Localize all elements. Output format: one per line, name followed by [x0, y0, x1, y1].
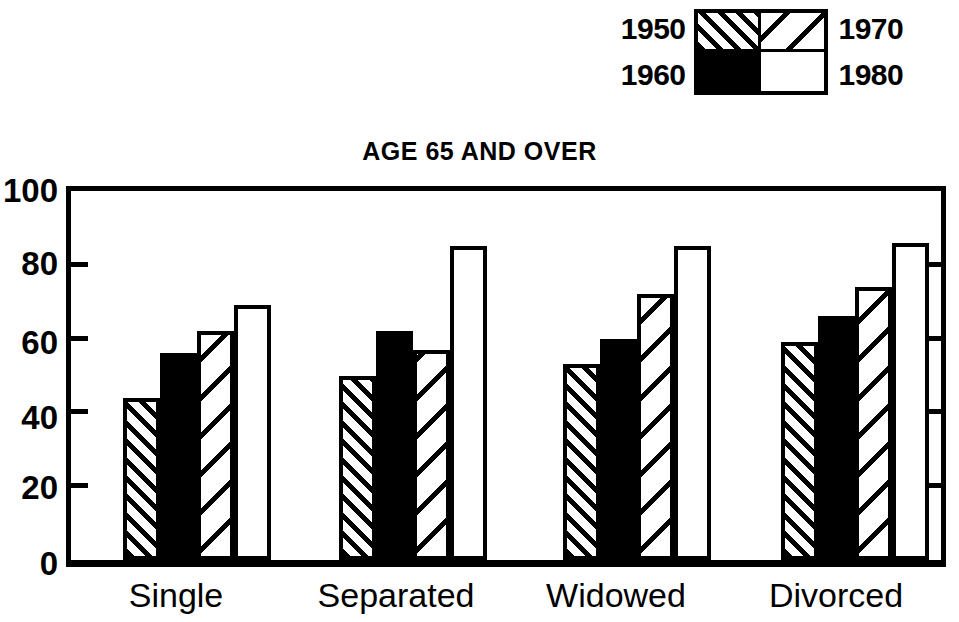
bar-group-divorced [731, 191, 951, 560]
y-tick-label-40: 40 [21, 401, 58, 434]
bar-single-1950 [123, 398, 160, 560]
bar-fill-1970 [859, 291, 888, 556]
bar-widowed-1980 [674, 246, 711, 560]
bar-divorced-1960 [818, 316, 855, 560]
bar-separated-1980 [450, 246, 487, 560]
plot-frame [66, 186, 946, 567]
legend-label-1950: 1950 [621, 9, 686, 49]
bar-fill-1970 [641, 298, 670, 556]
bar-separated-1960 [376, 331, 413, 560]
bar-fill-1950 [567, 368, 596, 556]
bar-separated-1950 [339, 376, 376, 561]
bar-fill-1960 [164, 357, 193, 556]
y-axis: 100 80 60 40 20 0 [0, 170, 66, 580]
bar-fill-1950 [127, 402, 156, 556]
bar-fill-1950 [785, 346, 814, 556]
bar-single-1960 [160, 353, 197, 560]
bar-fill-1960 [380, 335, 409, 556]
bar-separated-1970 [413, 350, 450, 560]
bar-widowed-1950 [563, 364, 600, 560]
bar-divorced-1980 [892, 243, 929, 560]
y-tick-label-100: 100 [3, 174, 58, 207]
legend-labels-left: 1950 1960 [612, 9, 694, 95]
bar-fill-1980 [896, 247, 925, 556]
bar-single-1980 [234, 305, 271, 560]
bar-fill-1950 [343, 380, 372, 557]
y-tick-label-80: 80 [21, 247, 58, 280]
bar-fill-1960 [822, 320, 851, 556]
legend-label-1970: 1970 [838, 9, 903, 49]
x-label-divorced: Divorced [726, 572, 946, 618]
bar-widowed-1960 [600, 339, 637, 560]
legend-labels-right: 1970 1980 [828, 9, 912, 95]
bar-widowed-1970 [637, 294, 674, 560]
legend-swatch-1980 [761, 52, 824, 91]
y-tick-label-0: 0 [40, 547, 58, 580]
x-label-widowed: Widowed [506, 572, 726, 618]
chart-legend: 1950 1960 1970 1980 [612, 4, 912, 100]
bar-fill-1980 [454, 250, 483, 556]
legend-swatch-1950 [698, 13, 761, 52]
y-tick-label-60: 60 [21, 326, 58, 359]
legend-swatch-box [694, 9, 829, 95]
bar-single-1970 [197, 331, 234, 560]
bar-fill-1960 [604, 343, 633, 556]
plot-area [71, 191, 941, 560]
legend-swatch-1970 [761, 13, 824, 52]
bar-group-widowed [511, 191, 731, 560]
bar-fill-1970 [201, 335, 230, 556]
x-label-separated: Separated [286, 572, 506, 618]
bar-fill-1980 [678, 250, 707, 556]
bar-fill-1970 [417, 354, 446, 556]
legend-label-1980: 1980 [838, 55, 903, 95]
chart-title: AGE 65 AND OVER [0, 137, 959, 166]
bar-divorced-1970 [855, 287, 892, 560]
x-axis-labels: Single Separated Widowed Divorced [66, 572, 946, 622]
bar-fill-1980 [238, 309, 267, 556]
bar-group-single [71, 191, 291, 560]
legend-swatch-1960 [698, 52, 761, 91]
y-tick-label-20: 20 [21, 471, 58, 504]
legend-label-1960: 1960 [621, 55, 686, 95]
bar-group-separated [291, 191, 511, 560]
x-label-single: Single [66, 572, 286, 618]
bar-divorced-1950 [781, 342, 818, 560]
